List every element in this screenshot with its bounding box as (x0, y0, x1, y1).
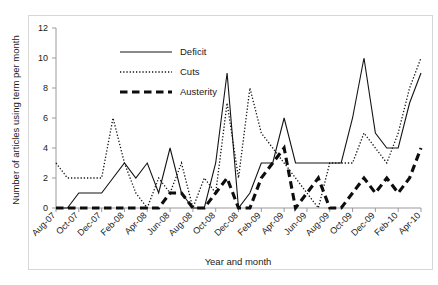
legend-label-deficit: Deficit (180, 46, 207, 57)
figure-background (0, 0, 438, 285)
x-axis-title: Year and month (205, 256, 272, 267)
y-tick-label: 10 (38, 53, 48, 63)
y-tick-label: 12 (38, 23, 48, 33)
legend-label-austerity: Austerity (180, 86, 217, 97)
legend-label-cuts: Cuts (180, 66, 200, 77)
y-tick-label: 2 (43, 173, 48, 183)
figure-container: Number of articles using term per month … (0, 0, 438, 285)
y-axis-title: Number of articles using term per month (10, 35, 21, 204)
y-tick-label: 0 (43, 203, 48, 213)
line-chart: Number of articles using term per month … (0, 0, 438, 285)
y-tick-label: 6 (43, 113, 48, 123)
y-tick-label: 4 (43, 143, 48, 153)
y-tick-label: 8 (43, 83, 48, 93)
